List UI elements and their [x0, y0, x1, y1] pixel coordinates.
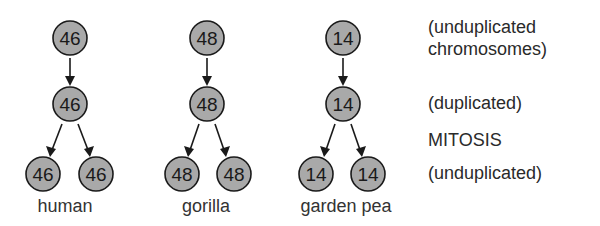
count-middle: 48 [196, 94, 217, 115]
arrow-right [351, 124, 360, 150]
species-label: gorilla [182, 196, 231, 216]
arrowhead-icon [320, 146, 330, 157]
arrow-right [78, 124, 88, 150]
arrowhead-icon [84, 146, 94, 157]
arrowhead-icon [46, 146, 56, 157]
arrowhead-icon [338, 76, 348, 86]
arrowhead-icon [65, 76, 75, 86]
species-garden-pea: 14 14 14 14 garden pea [299, 21, 393, 216]
arrowhead-icon [184, 146, 194, 157]
species-gorilla: 48 48 48 48 gorilla [165, 21, 251, 216]
arrow-left [326, 124, 335, 150]
species-label: human [37, 196, 92, 216]
species-human: 46 46 46 46 human [26, 21, 113, 216]
arrow-left [190, 124, 199, 150]
arrowhead-icon [220, 146, 230, 157]
count-middle: 46 [59, 94, 80, 115]
count-bottom-left: 48 [171, 164, 192, 185]
label-line: chromosomes) [428, 38, 547, 60]
count-bottom-right: 14 [357, 164, 379, 185]
arrowhead-icon [202, 76, 212, 86]
count-middle: 14 [332, 94, 354, 115]
count-bottom-right: 46 [85, 164, 106, 185]
count-top: 14 [332, 28, 354, 49]
count-top: 46 [59, 28, 80, 49]
label-unduplicated-chromosomes: (unduplicated chromosomes) [428, 16, 547, 60]
count-bottom-left: 46 [32, 164, 53, 185]
arrow-right [215, 124, 224, 150]
arrow-left [52, 124, 62, 150]
count-top: 48 [196, 28, 217, 49]
label-line: (unduplicated [428, 16, 547, 38]
count-bottom-left: 14 [305, 164, 327, 185]
label-mitosis: MITOSIS [428, 129, 502, 151]
label-duplicated: (duplicated) [428, 92, 522, 114]
count-bottom-right: 48 [223, 164, 244, 185]
label-unduplicated: (unduplicated) [428, 162, 542, 184]
species-label: garden pea [300, 196, 392, 216]
arrowhead-icon [356, 146, 366, 157]
